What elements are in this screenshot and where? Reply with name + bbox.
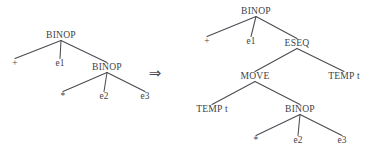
tree-node-binop: BINOP xyxy=(241,5,271,16)
tree-edge xyxy=(297,49,344,72)
tree-node-: * xyxy=(61,91,66,101)
tree-node-e2: e2 xyxy=(99,91,108,101)
figure-root: BINOP+e1BINOP*e2e3BINOP+e1ESEQMOVETEMP t… xyxy=(0,0,372,157)
tree-node-: + xyxy=(12,58,18,68)
tree-node-move: MOVE xyxy=(240,70,269,81)
tree-node-temp-t: TEMP t xyxy=(328,70,360,81)
tree-edge xyxy=(298,115,300,136)
tree-node-binop: BINOP xyxy=(92,61,122,72)
tree-edge xyxy=(61,41,107,63)
tree-edge xyxy=(60,41,61,59)
tree-edge xyxy=(107,73,145,92)
tree-nodes-layer: BINOP+e1BINOP*e2e3BINOP+e1ESEQMOVETEMP t… xyxy=(12,5,360,145)
tree-edge xyxy=(255,49,297,72)
tree-edge xyxy=(255,82,300,105)
tree-node-e1: e1 xyxy=(55,58,64,68)
tree-node-binop: BINOP xyxy=(285,103,315,114)
tree-edge xyxy=(256,17,297,39)
tree-node-: * xyxy=(254,135,259,145)
tree-node-e3: e3 xyxy=(337,135,346,145)
tree-node-e3: e3 xyxy=(140,91,149,101)
tree-node-temp-t: TEMP t xyxy=(196,103,228,114)
tree-node-: + xyxy=(204,36,210,46)
tree-edge xyxy=(207,17,256,37)
tree-edge xyxy=(251,17,256,37)
diagram-canvas: BINOP+e1BINOP*e2e3BINOP+e1ESEQMOVETEMP t… xyxy=(0,0,372,157)
tree-node-eseq: ESEQ xyxy=(285,37,310,48)
tree-edge xyxy=(15,41,61,59)
tree-edge xyxy=(63,73,107,92)
tree-node-e2: e2 xyxy=(293,135,302,145)
tree-node-binop: BINOP xyxy=(46,29,76,40)
tree-edge xyxy=(300,115,342,136)
tree-edge xyxy=(212,82,255,105)
tree-edge xyxy=(104,73,107,92)
double-right-arrow-icon: ⇒ xyxy=(149,64,162,82)
tree-node-e1: e1 xyxy=(246,36,255,46)
tree-edge xyxy=(256,115,300,136)
